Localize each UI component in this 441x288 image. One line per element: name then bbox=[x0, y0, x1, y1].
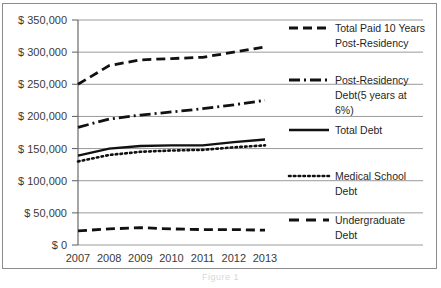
y-tick-label: $ 200,000 bbox=[18, 110, 67, 122]
legend-label: Total Paid 10 Years bbox=[335, 22, 425, 34]
legend-label: Post-Residency bbox=[335, 74, 409, 86]
y-tick-label: $ 300,000 bbox=[18, 46, 67, 58]
data-series-line bbox=[78, 100, 265, 127]
x-tick-label: 2008 bbox=[97, 252, 121, 264]
x-axis-tick-labels: 2007200820092010201120122013 bbox=[66, 252, 277, 264]
legend-label: Debt(5 years at bbox=[335, 89, 407, 101]
figure-caption: Figure 1 bbox=[0, 272, 441, 282]
y-tick-marks bbox=[72, 20, 78, 245]
legend-label: Undergraduate bbox=[335, 214, 405, 226]
y-tick-label: $ 100,000 bbox=[18, 175, 67, 187]
x-tick-label: 2009 bbox=[128, 252, 152, 264]
legend-label: Total Debt bbox=[335, 124, 382, 136]
chart-frame: $ 0$ 50,000$ 100,000$ 150,000$ 200,000$ … bbox=[2, 3, 437, 269]
data-series-group bbox=[78, 47, 265, 231]
y-tick-label: $ 350,000 bbox=[18, 14, 67, 26]
x-tick-label: 2007 bbox=[66, 252, 90, 264]
legend-label: Debt bbox=[335, 185, 357, 197]
data-series-line bbox=[78, 228, 265, 231]
y-tick-label: $ 150,000 bbox=[18, 143, 67, 155]
x-tick-label: 2010 bbox=[159, 252, 183, 264]
y-tick-label: $ 0 bbox=[52, 239, 67, 251]
figure-root: $ 0$ 50,000$ 100,000$ 150,000$ 200,000$ … bbox=[0, 0, 441, 288]
data-series-line bbox=[78, 145, 265, 161]
y-tick-label: $ 250,000 bbox=[18, 78, 67, 90]
line-chart: $ 0$ 50,000$ 100,000$ 150,000$ 200,000$ … bbox=[3, 4, 436, 268]
y-axis-tick-labels: $ 0$ 50,000$ 100,000$ 150,000$ 200,000$ … bbox=[18, 14, 67, 251]
legend-label: Medical School bbox=[335, 170, 406, 182]
legend-label: Debt bbox=[335, 229, 357, 241]
x-tick-label: 2011 bbox=[191, 252, 215, 264]
legend-label: 6%) bbox=[335, 104, 354, 116]
x-tick-label: 2012 bbox=[222, 252, 246, 264]
legend: Total Paid 10 YearsPost-ResidencyPost-Re… bbox=[289, 22, 425, 241]
y-tick-label: $ 50,000 bbox=[24, 207, 67, 219]
legend-label: Post-Residency bbox=[335, 37, 409, 49]
x-tick-label: 2013 bbox=[253, 252, 277, 264]
